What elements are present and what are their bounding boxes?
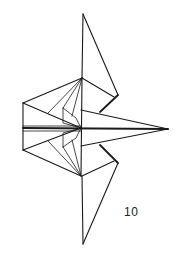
central-spine bbox=[23, 78, 168, 176]
origami-diagram bbox=[0, 0, 179, 261]
lower-wing bbox=[82, 145, 118, 244]
upper-wing bbox=[82, 14, 118, 112]
step-number-label: 10 bbox=[124, 205, 138, 219]
